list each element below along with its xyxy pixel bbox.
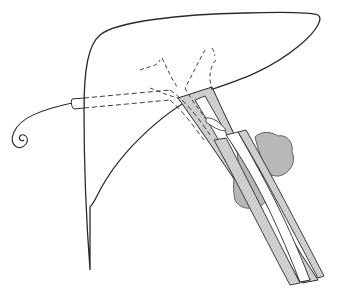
liver-biliary-diagram [0, 0, 344, 291]
catheter-hub [71, 98, 84, 109]
pigtail-coil [12, 103, 72, 148]
diagram-canvas: Liver with percutaneous transhepatic bil… [0, 0, 344, 291]
